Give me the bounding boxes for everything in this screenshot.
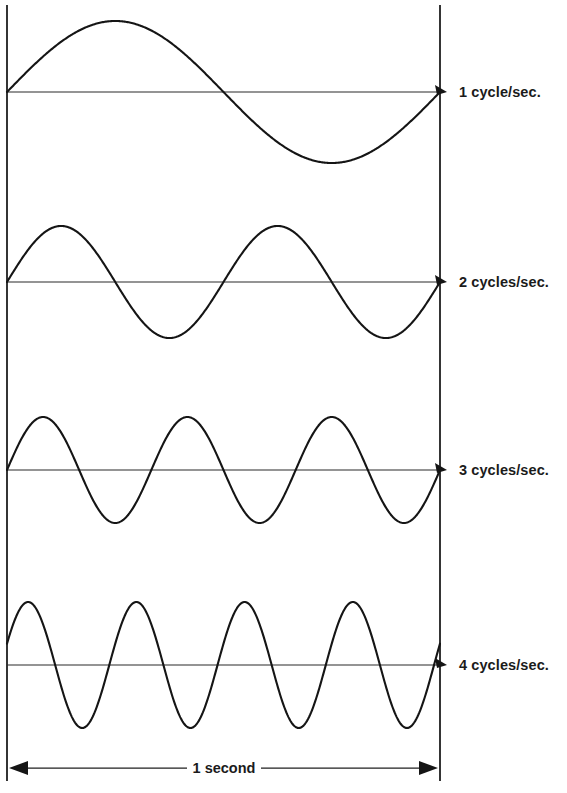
dimension-arrow-right [419, 761, 438, 775]
wave-label-2: 2 cycles/sec. [459, 275, 549, 290]
wave-label-1: 1 cycle/sec. [459, 85, 541, 100]
waveform-canvas [0, 0, 567, 793]
wave-pointer-arrow-1 [435, 85, 447, 95]
frequency-waveform-figure: 1 cycle/sec. 2 cycles/sec. 3 cycles/sec.… [0, 0, 567, 793]
wave-label-4: 4 cycles/sec. [459, 658, 549, 673]
one-second-label: 1 second [187, 761, 262, 776]
dimension-arrow-left [9, 761, 28, 775]
wave-pointer-arrow-4 [435, 658, 447, 668]
wave-pointer-arrow-3 [435, 463, 447, 473]
wave-label-3: 3 cycles/sec. [459, 463, 549, 478]
wave-pointer-arrow-2 [435, 275, 447, 285]
waveform-group [7, 21, 447, 728]
